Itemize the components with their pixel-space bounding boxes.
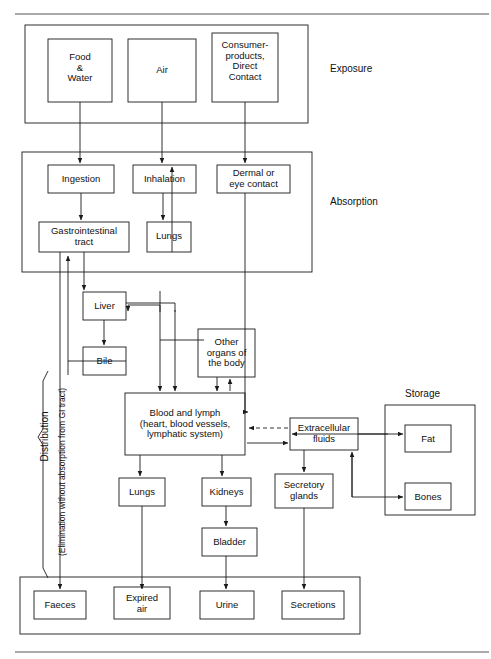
liver-return-arrow [128,305,160,312]
diagram-canvas: Food&Water Air Consumer-products,DirectC… [0,0,491,659]
node-fat[interactable]: Fat [405,434,451,445]
node-gastrointestinal-tract[interactable]: Gastrointestinaltract [39,226,129,247]
node-boxes [34,33,451,619]
node-bladder[interactable]: Bladder [202,537,257,548]
node-other-organs[interactable]: Otherorgans ofthe body [198,337,255,369]
node-urine[interactable]: Urine [200,600,254,611]
node-liver[interactable]: Liver [83,301,126,312]
diagram-vector-layer [0,0,491,659]
node-lungs-lower[interactable]: Lungs [119,487,165,498]
node-dermal-eye-contact[interactable]: Dermal oreye contact [217,168,290,189]
node-food-water[interactable]: Food&Water [48,52,112,84]
node-consumer-products[interactable]: Consumer-products,DirectContact [212,40,278,82]
node-secretions[interactable]: Secretions [282,600,344,611]
node-bile[interactable]: Bile [83,356,126,367]
section-label-distribution: Distribution [39,382,50,492]
node-air[interactable]: Air [128,65,196,76]
section-label-storage: Storage [405,388,440,399]
section-label-absorption: Absorption [330,196,378,207]
node-ingestion[interactable]: Ingestion [48,174,114,185]
flow-lines-plain [68,303,352,497]
node-expired-air[interactable]: Expiredair [114,593,170,614]
node-blood-and-lymph[interactable]: Blood and lymph(heart, blood vessels,lym… [125,408,245,440]
node-lungs-upper[interactable]: Lungs [147,231,191,242]
node-secretory-glands[interactable]: Secretoryglands [275,480,333,501]
elimination-note-label: (Elimination without absorption from GI … [57,372,67,572]
node-inhalation[interactable]: Inhalation [133,174,196,185]
node-bones[interactable]: Bones [405,492,451,503]
node-kidneys[interactable]: Kidneys [202,487,251,498]
node-faeces[interactable]: Faeces [34,600,86,611]
section-label-exposure: Exposure [330,63,372,74]
node-extracellular-fluids[interactable]: Extracellularfluids [290,423,358,444]
